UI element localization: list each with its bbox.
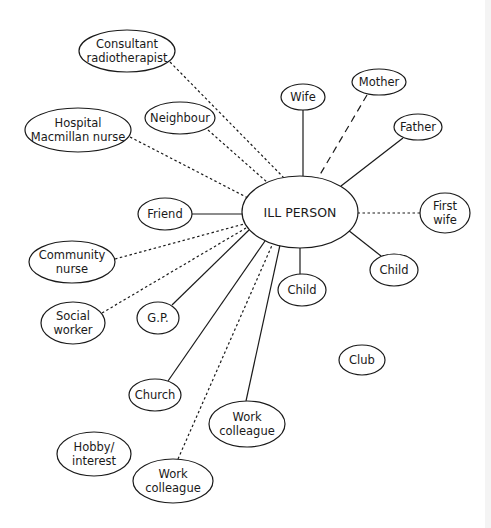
node-child-right: Child <box>370 254 418 286</box>
node-label: Child <box>379 263 408 277</box>
node-hobby: Hobby/interest <box>57 432 131 476</box>
node-social-worker: Socialworker <box>41 302 105 344</box>
node-label: First <box>433 199 458 213</box>
node-label: interest <box>72 454 117 468</box>
node-label: Church <box>135 388 176 402</box>
node-label: Work <box>158 467 187 481</box>
node-neighbour: Neighbour <box>145 102 215 134</box>
node-hospital-nurse: HospitalMacmillan nurse <box>25 108 131 152</box>
node-label: Consultant <box>96 37 159 51</box>
node-mother: Mother <box>352 69 406 95</box>
node-church: Church <box>129 379 181 411</box>
node-label: Wife <box>290 90 315 104</box>
edge-mother-dashed <box>318 95 367 178</box>
node-first-wife: Firstwife <box>420 193 470 233</box>
node-father: Father <box>394 114 442 140</box>
node-work-colleague-right: Workcolleague <box>209 401 285 447</box>
center-node-label: ILL PERSON <box>264 205 337 220</box>
node-label: Macmillan nurse <box>31 130 125 144</box>
node-label: G.P. <box>147 311 168 325</box>
node-label: colleague <box>145 481 201 495</box>
center-node-ill-person: ILL PERSON <box>242 176 358 248</box>
node-label: nurse <box>56 262 88 276</box>
node-label: Social <box>56 309 90 323</box>
node-label: wife <box>433 213 457 227</box>
node-label: Neighbour <box>150 111 210 125</box>
social-network-diagram: ConsultantradiotherapistHospitalMacmilla… <box>0 0 491 528</box>
edge-work-colleague-right-solid <box>246 245 280 401</box>
node-friend: Friend <box>138 198 192 230</box>
node-label: Father <box>400 120 436 134</box>
node-label: Community <box>39 248 106 262</box>
node-label: worker <box>53 323 92 337</box>
node-label: radiotherapist <box>87 51 168 65</box>
node-label: Hospital <box>55 116 102 130</box>
node-child-center: Child <box>278 274 326 306</box>
node-label: Child <box>287 283 316 297</box>
edge-child-right-solid <box>348 230 381 256</box>
node-label: Work <box>232 410 261 424</box>
node-label: Mother <box>359 75 400 89</box>
edge-neighbour-dotted <box>208 130 268 183</box>
node-community-nurse: Communitynurse <box>29 241 115 283</box>
node-club: Club <box>339 345 385 375</box>
node-label: Friend <box>147 207 182 221</box>
node-gp: G.P. <box>137 302 179 334</box>
node-label: colleague <box>219 424 275 438</box>
edge-father-solid <box>341 138 403 186</box>
node-label: Hobby/ <box>74 440 115 454</box>
node-wife: Wife <box>281 84 325 110</box>
node-consultant: Consultantradiotherapist <box>79 30 175 72</box>
node-label: Club <box>349 353 375 367</box>
node-work-colleague-bottom: Workcolleague <box>133 459 213 503</box>
edge-hospital-nurse-dotted <box>130 137 248 198</box>
edge-gp-solid <box>172 230 249 305</box>
